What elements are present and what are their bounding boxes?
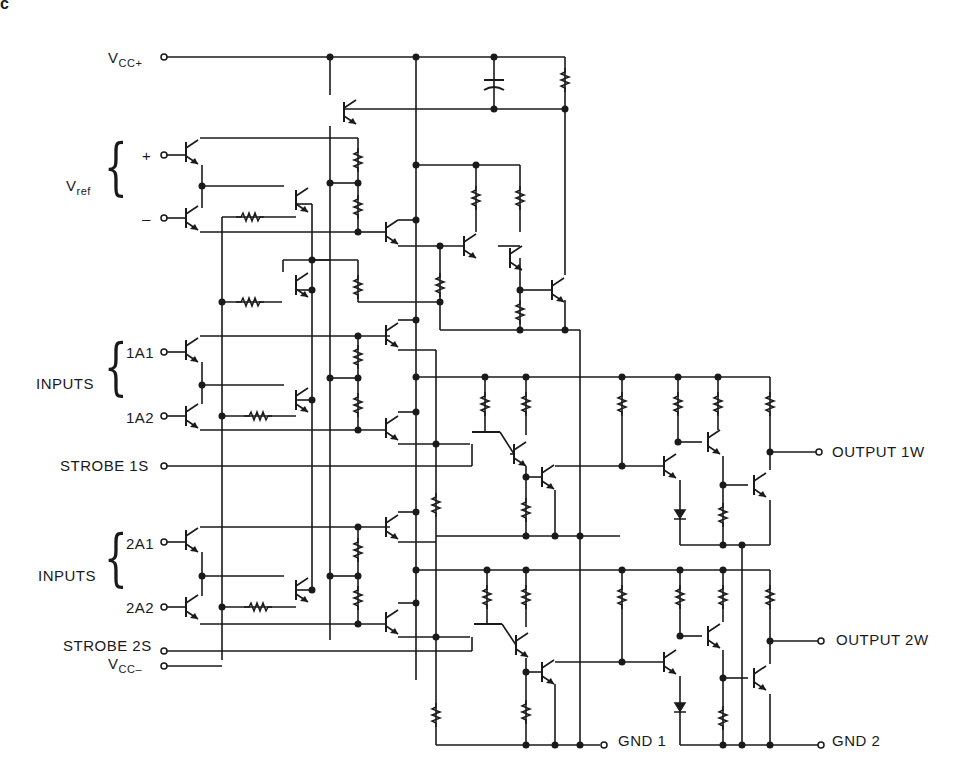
resistors — [236, 68, 774, 730]
circuit-schematic — [0, 0, 961, 780]
junction-dots — [199, 54, 774, 749]
terminal-circles — [161, 54, 824, 748]
